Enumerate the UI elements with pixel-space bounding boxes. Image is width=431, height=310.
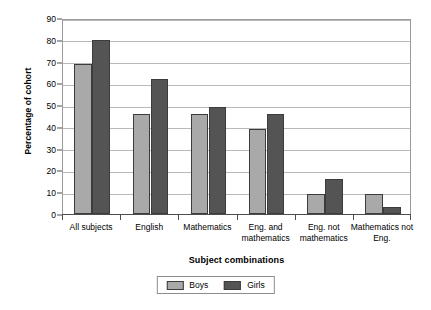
x-axis-label: English (116, 222, 182, 233)
bar-boys-0 (74, 64, 92, 214)
bar-boys-4 (307, 194, 325, 214)
legend-item-girls[interactable]: Girls (224, 280, 264, 290)
bar-girls-0 (92, 40, 110, 214)
legend: BoysGirls (156, 276, 274, 294)
y-axis-tick-label: 10 (47, 188, 56, 198)
plot-area (62, 19, 411, 215)
x-axis-label: Mathematics (174, 222, 240, 233)
x-axis-tick-mark (178, 215, 179, 220)
legend-swatch-girls (224, 281, 241, 290)
x-axis-tick-mark (62, 215, 63, 220)
bar-boys-3 (249, 129, 267, 214)
legend-label: Girls (247, 280, 264, 290)
x-axis-ticks (62, 215, 411, 221)
y-axis-tick-label: 80 (47, 36, 56, 46)
bar-boys-2 (191, 114, 209, 214)
legend-label: Boys (189, 280, 208, 290)
x-axis-labels: All subjectsEnglishMathematicsEng. and m… (62, 222, 411, 252)
bar-girls-4 (325, 179, 343, 214)
x-axis-label: All subjects (58, 222, 124, 233)
x-axis-tick-mark (237, 215, 238, 220)
y-axis-tick-label: 60 (47, 79, 56, 89)
y-axis-tick-label: 70 (47, 58, 56, 68)
y-axis-tick-label: 50 (47, 101, 56, 111)
x-axis-tick-mark (295, 215, 296, 220)
x-axis-label: Eng. not mathematics (291, 222, 357, 243)
bar-chart: Percentage of cohort 9080706050403020100… (0, 0, 431, 310)
bar-boys-5 (365, 194, 383, 214)
bar-girls-3 (267, 114, 285, 214)
bar-girls-1 (151, 79, 169, 214)
y-axis-tick-label: 90 (47, 14, 56, 24)
y-axis-tick-label: 30 (47, 145, 56, 155)
y-axis-ticks: 9080706050403020100 (0, 19, 62, 215)
x-axis-tick-mark (353, 215, 354, 220)
x-axis-label: Mathematics not Eng. (349, 222, 415, 243)
legend-swatch-boys (166, 281, 183, 290)
y-axis-tick-label: 40 (47, 123, 56, 133)
x-axis-tick-mark (410, 215, 411, 220)
x-axis-label: Eng. and mathematics (233, 222, 299, 243)
bar-boys-1 (133, 114, 151, 214)
bar-girls-2 (209, 107, 227, 214)
legend-item-boys[interactable]: Boys (166, 280, 208, 290)
y-axis-tick-label: 20 (47, 166, 56, 176)
x-axis-tick-mark (120, 215, 121, 220)
y-axis-tick-label: 0 (51, 210, 56, 220)
bars-layer (63, 20, 410, 214)
x-axis-title: Subject combinations (62, 255, 411, 265)
